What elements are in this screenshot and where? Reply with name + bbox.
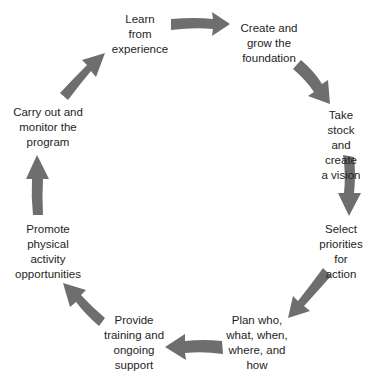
step-provide-training-support: Provide training and ongoing support bbox=[104, 313, 164, 373]
step-select-priorities: Select priorities for action bbox=[319, 222, 362, 282]
step-take-stock-create-vision: Take stock and create a vision bbox=[322, 108, 361, 183]
step-plan-who-what-when: Plan who, what, when, where, and how bbox=[226, 313, 287, 373]
step-carry-out-monitor-program: Carry out and monitor the program bbox=[13, 105, 83, 150]
arrow-up-left-icon bbox=[63, 283, 105, 326]
arrow-left-icon bbox=[165, 334, 223, 360]
step-learn-from-experience: Learn from experience bbox=[112, 12, 168, 57]
arrow-right-icon bbox=[171, 12, 230, 36]
cycle-arrows bbox=[0, 0, 380, 374]
step-create-and-grow-foundation: Create and grow the foundation bbox=[241, 21, 298, 66]
arrow-down-right-icon bbox=[293, 60, 330, 104]
cycle-diagram: Learn from experience Create and grow th… bbox=[0, 0, 380, 374]
arrow-up-right-icon bbox=[60, 53, 105, 100]
step-promote-physical-activity: Promote physical activity opportunities bbox=[15, 222, 81, 282]
arrow-up-icon bbox=[26, 155, 49, 215]
